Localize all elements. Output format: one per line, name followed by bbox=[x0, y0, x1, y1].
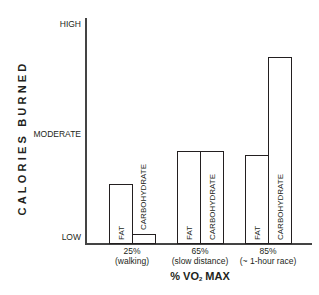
y-axis-line bbox=[85, 18, 87, 244]
bar-fat-2: FAT bbox=[245, 155, 269, 244]
bar-label: CARBOHYDRATE bbox=[139, 164, 148, 230]
x-axis-title: % VO2 MAX bbox=[170, 270, 230, 282]
bar-label: CARBOHYDRATE bbox=[208, 174, 217, 240]
bar-label: CARBOHYDRATE bbox=[276, 174, 285, 240]
bar-carbohydrate-0 bbox=[132, 234, 156, 244]
bar-carbohydrate-1: CARBOHYDRATE bbox=[200, 151, 224, 244]
y-tick-high: HIGH bbox=[60, 19, 81, 29]
x-category-walking: 25%(walking) bbox=[115, 246, 149, 266]
bar-carbohydrate-2: CARBOHYDRATE bbox=[268, 57, 292, 244]
y-axis-title: CALORIES BURNED bbox=[16, 61, 28, 216]
x-category-slow-distance: 65%(slow distance) bbox=[172, 246, 229, 266]
y-tick-low: LOW bbox=[62, 232, 81, 242]
y-tick-moderate: MODERATE bbox=[33, 129, 81, 139]
bar-label: FAT bbox=[185, 226, 194, 240]
chart-area: CALORIES BURNED HIGH MODERATE LOW FATFAT… bbox=[0, 0, 319, 295]
bar-fat-1: FAT bbox=[177, 151, 201, 244]
bar-label: FAT bbox=[117, 226, 126, 240]
bar-label: FAT bbox=[253, 226, 262, 240]
x-category-race: 85%(~ 1-hour race) bbox=[240, 246, 296, 266]
bar-fat-0: FAT bbox=[109, 184, 133, 244]
